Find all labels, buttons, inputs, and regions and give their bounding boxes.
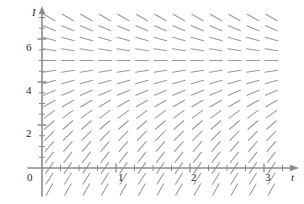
- slope-segment: [83, 173, 90, 184]
- slope-segment: [211, 131, 220, 140]
- slope-segment: [135, 49, 148, 51]
- slope-segment: [265, 49, 278, 51]
- slope-segment: [45, 142, 53, 152]
- slope-segment: [191, 70, 204, 72]
- slope-segment: [192, 100, 203, 107]
- slope-segment: [173, 14, 184, 21]
- slope-segment: [81, 14, 92, 21]
- slope-segment: [229, 110, 240, 118]
- slope-segment: [136, 14, 147, 21]
- slope-segment: [155, 14, 166, 21]
- slope-segment: [64, 152, 72, 162]
- slope-segment: [246, 49, 259, 51]
- slope-segment: [44, 110, 55, 118]
- slope-segment: [82, 142, 90, 152]
- slope-segment: [154, 80, 166, 84]
- slope-segment: [100, 110, 111, 118]
- slope-segment: [246, 70, 259, 72]
- slope-segment: [175, 142, 183, 152]
- slope-segment: [176, 184, 182, 195]
- slope-segment: [230, 131, 239, 140]
- slope-segment: [212, 142, 220, 152]
- slope-segment: [119, 131, 128, 140]
- slope-segment: [211, 110, 222, 118]
- slope-segment: [268, 184, 274, 195]
- slope-segment: [61, 70, 74, 72]
- slope-segment: [266, 100, 277, 107]
- slope-segment: [230, 142, 238, 152]
- slope-field-figure: 6 4 2 0 1 2 3 I t: [0, 0, 304, 204]
- slope-segment: [138, 152, 146, 162]
- slope-segment: [137, 110, 148, 118]
- slope-segment: [173, 100, 184, 107]
- slope-segment: [99, 90, 111, 95]
- slope-segment: [117, 90, 129, 95]
- slope-segment: [136, 26, 148, 31]
- slope-segment: [98, 70, 111, 72]
- slope-segment: [265, 37, 277, 41]
- slope-segment: [99, 80, 111, 84]
- slope-segment: [155, 110, 166, 118]
- slope-segment: [228, 49, 241, 51]
- slope-segment: [173, 37, 185, 41]
- axes-group: [28, 6, 299, 196]
- slope-segment: [154, 90, 166, 95]
- slope-segment: [101, 152, 109, 162]
- slope-segment: [62, 26, 74, 31]
- slope-segment: [191, 80, 203, 84]
- slope-segment: [156, 142, 164, 152]
- slope-segment: [231, 173, 238, 184]
- slope-segment: [65, 184, 71, 195]
- slope-segment: [44, 100, 55, 107]
- slope-segment: [80, 26, 92, 31]
- slope-segment: [154, 70, 167, 72]
- slope-segment: [191, 37, 203, 41]
- slope-segment: [101, 173, 108, 184]
- slope-segment: [210, 100, 221, 107]
- slope-segment: [46, 173, 53, 184]
- slope-segment: [64, 142, 72, 152]
- slope-segment: [62, 37, 74, 41]
- slope-segment: [137, 121, 147, 130]
- slope-segment: [228, 26, 240, 31]
- slope-segment: [118, 100, 129, 107]
- slope-segment: [247, 26, 259, 31]
- x-tick-label-1: 1: [118, 172, 124, 183]
- slope-segment: [231, 184, 237, 195]
- slope-segment: [82, 152, 90, 162]
- slope-segment: [248, 110, 259, 118]
- slope-segment: [209, 49, 222, 51]
- slope-segment: [80, 90, 92, 95]
- y-axis-arrowhead: [39, 6, 46, 14]
- slope-segment: [80, 49, 93, 51]
- slope-segment: [267, 121, 277, 130]
- slope-segment: [156, 152, 164, 162]
- slope-segment: [99, 26, 111, 31]
- slope-segment: [82, 131, 91, 140]
- slope-segment: [100, 121, 110, 130]
- slope-segment: [173, 26, 185, 31]
- slope-segment: [174, 131, 183, 140]
- slope-segment: [45, 152, 53, 162]
- slope-segment: [154, 26, 166, 31]
- slope-segment: [229, 100, 240, 107]
- slope-segment: [229, 14, 240, 21]
- slope-segment: [119, 142, 127, 152]
- y-tick-label-2: 2: [26, 128, 32, 139]
- slope-segment: [193, 121, 203, 130]
- slope-segment: [194, 184, 200, 195]
- slope-segment: [266, 14, 277, 21]
- slope-segment: [118, 110, 129, 118]
- slope-segment: [46, 184, 52, 195]
- slope-segment: [175, 173, 182, 184]
- slope-segment: [265, 26, 277, 31]
- slope-segment: [83, 184, 89, 195]
- slope-segment: [247, 14, 258, 21]
- slope-segment: [136, 80, 148, 84]
- slope-segment: [63, 131, 72, 140]
- slope-segment: [210, 26, 222, 31]
- slope-segment: [209, 70, 222, 72]
- slope-field-plot: [0, 0, 304, 204]
- y-axis-label: I: [32, 7, 36, 18]
- slope-segment: [154, 49, 167, 51]
